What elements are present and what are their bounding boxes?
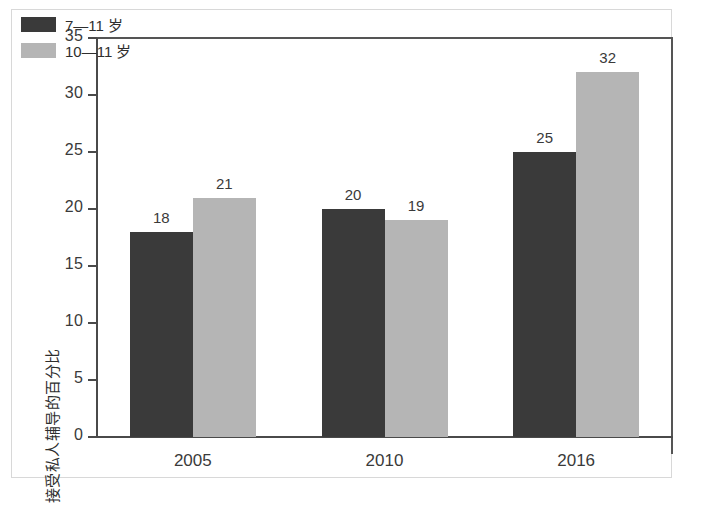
y-axis-title: 接受私人辅导的百分比 — [41, 331, 62, 507]
x-axis-category-label: 2005 — [133, 451, 253, 471]
legend-item-label: 10—11 岁 — [65, 40, 131, 61]
bar: 20 — [322, 209, 385, 437]
bar: 18 — [130, 232, 193, 437]
y-axis-tick-mark — [88, 208, 97, 210]
bars-layer: 182120052019201025322016 — [97, 38, 672, 437]
bar-value-label: 25 — [536, 129, 553, 146]
y-axis-tick-mark — [88, 151, 97, 153]
x-axis-category-label: 2016 — [516, 451, 636, 471]
bar: 21 — [193, 198, 256, 437]
bar-value-label: 32 — [599, 49, 616, 66]
y-axis-tick-mark — [88, 94, 97, 96]
y-axis-tick-label: 30 — [65, 84, 83, 102]
bar: 19 — [385, 220, 448, 437]
bar: 32 — [576, 72, 639, 437]
y-axis-tick-label: 15 — [65, 255, 83, 273]
bar-value-label: 21 — [216, 175, 233, 192]
legend-item-label: 7—11 岁 — [65, 14, 123, 35]
legend-color-swatch — [21, 43, 56, 58]
legend: 7—11 岁10—11 岁 — [21, 11, 171, 63]
x-axis-category-label: 2010 — [325, 451, 445, 471]
y-axis-tick-label: 5 — [74, 369, 83, 387]
y-axis-tick-label: 10 — [65, 312, 83, 330]
y-axis-tick-mark — [88, 436, 97, 438]
legend-item: 10—11 岁 — [21, 37, 171, 63]
bar-value-label: 19 — [408, 197, 425, 214]
y-axis-tick-mark — [88, 265, 97, 267]
plot-area: 182120052019201025322016 — [97, 38, 672, 437]
legend-item: 7—11 岁 — [21, 11, 171, 37]
bar-value-label: 18 — [153, 209, 170, 226]
y-axis-tick-label: 25 — [65, 141, 83, 159]
y-axis-tick-label: 0 — [74, 426, 83, 444]
y-axis-tick-label: 20 — [65, 198, 83, 216]
bar: 25 — [513, 152, 576, 437]
legend-color-swatch — [21, 17, 56, 32]
bar-value-label: 20 — [345, 186, 362, 203]
y-axis-tick-mark — [88, 379, 97, 381]
y-axis-tick-mark — [88, 322, 97, 324]
